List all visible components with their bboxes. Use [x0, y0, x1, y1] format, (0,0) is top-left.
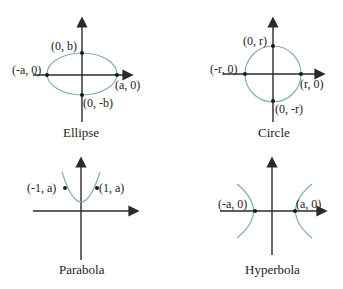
point-left	[63, 186, 67, 190]
point-left	[253, 209, 257, 213]
caption: Hyperbola	[245, 262, 300, 277]
label-right: (r, 0)	[300, 77, 324, 91]
point-left	[45, 73, 49, 77]
point-top	[80, 51, 84, 55]
caption: Ellipse	[63, 125, 99, 140]
label-right: (a, 0)	[296, 197, 321, 211]
caption: Parabola	[59, 262, 105, 277]
label-left: (-r, 0)	[210, 62, 238, 76]
caption: Circle	[258, 125, 290, 140]
label-top: (0, b)	[51, 39, 77, 53]
label-top: (0, r)	[243, 34, 267, 48]
label-left: (-a, 0)	[12, 63, 41, 77]
hyperbola-panel: (-a, 0) (a, 0) Hyperbola	[218, 162, 322, 277]
ellipse-panel: (0, b) (-a, 0) (a, 0) (0, -b) Ellipse	[12, 22, 140, 140]
label-right: (1, a)	[99, 181, 124, 195]
point-right	[115, 73, 119, 77]
point-right	[299, 72, 303, 76]
label-bottom: (0, -r)	[275, 102, 303, 116]
point-top	[271, 44, 275, 48]
parabola-panel: (-1, a) (1, a) Parabola	[27, 162, 134, 277]
conic-sections-diagram: (0, b) (-a, 0) (a, 0) (0, -b) Ellipse (0…	[0, 0, 343, 289]
point-left	[243, 72, 247, 76]
label-bottom: (0, -b)	[83, 96, 113, 110]
label-left: (-a, 0)	[218, 197, 247, 211]
label-right: (a, 0)	[115, 78, 140, 92]
circle-panel: (0, r) (-r, 0) (r, 0) (0, -r) Circle	[210, 22, 324, 140]
label-left: (-1, a)	[27, 181, 56, 195]
